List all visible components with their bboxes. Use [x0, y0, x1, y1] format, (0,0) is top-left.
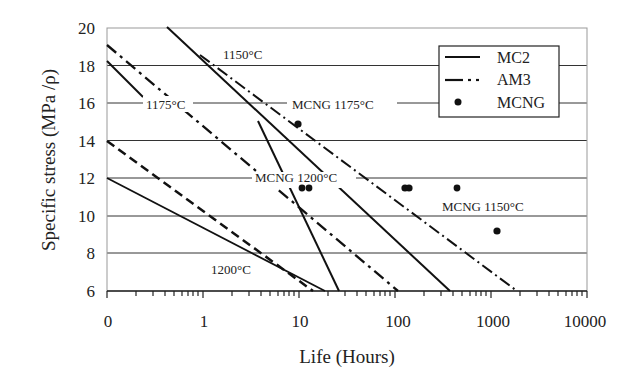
legend-mcng: MCNG [497, 94, 545, 111]
svg-text:14: 14 [78, 132, 96, 151]
y-axis-title: Specific stress (MPa /ρ) [38, 69, 60, 251]
svg-text:12: 12 [78, 169, 95, 188]
svg-text:18: 18 [78, 57, 95, 76]
annot-mcng-1150: MCNG 1150°C [442, 199, 524, 214]
svg-text:1: 1 [200, 312, 209, 331]
svg-text:1000: 1000 [476, 312, 510, 331]
svg-text:20: 20 [78, 19, 95, 38]
annot-1175: 1175°C [146, 97, 185, 112]
legend: MC2 AM3 MCNG [439, 46, 559, 117]
x-axis-title: Life (Hours) [299, 346, 395, 368]
svg-text:10: 10 [292, 312, 309, 331]
line-mc2-1175-upper [107, 61, 143, 97]
x-axis-labels: 0 1 10 100 1000 10000 [104, 312, 607, 331]
svg-text:100: 100 [385, 312, 411, 331]
annot-mcng-1200: MCNG 1200°C [255, 170, 337, 185]
svg-text:10000: 10000 [564, 312, 607, 331]
svg-text:10: 10 [78, 207, 95, 226]
annot-mcng-1175: MCNG 1175°C [292, 97, 374, 112]
line-mc2-1150 [167, 27, 450, 291]
annot-1200: 1200°C [211, 262, 251, 277]
legend-mc2: MC2 [497, 49, 530, 66]
creep-life-chart: 1150°C 1175°C MCNG 1175°C MCNG 1200°C 12… [0, 0, 638, 383]
x-axis-ticks [107, 291, 587, 298]
svg-text:6: 6 [87, 282, 96, 301]
svg-text:8: 8 [87, 244, 96, 263]
svg-text:0: 0 [104, 312, 113, 331]
svg-text:16: 16 [78, 94, 95, 113]
legend-am3: AM3 [497, 71, 531, 88]
y-axis-labels: 20 18 16 14 12 10 8 6 [78, 19, 96, 301]
annot-1150: 1150°C [223, 47, 262, 62]
